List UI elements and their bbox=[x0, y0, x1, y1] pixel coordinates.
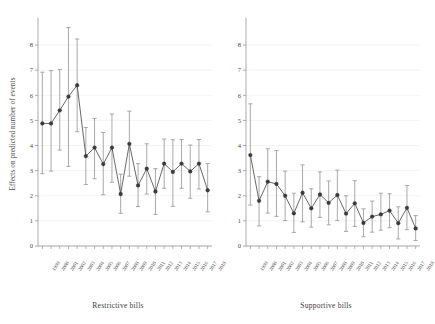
y-tick-label: 3 bbox=[238, 167, 242, 174]
data-point bbox=[327, 201, 331, 205]
y-tick-label: 7 bbox=[30, 66, 34, 73]
data-point bbox=[188, 170, 192, 174]
data-point bbox=[388, 209, 392, 213]
y-tick-label: 6 bbox=[30, 92, 34, 99]
data-point bbox=[101, 162, 105, 166]
y-tick-label: 3 bbox=[30, 167, 34, 174]
data-point bbox=[344, 212, 348, 216]
y-tick-label: 4 bbox=[238, 142, 242, 149]
data-point bbox=[110, 146, 114, 150]
series-line bbox=[250, 155, 415, 228]
x-tick-label: 2014 bbox=[389, 260, 400, 272]
data-point bbox=[162, 162, 166, 166]
data-point bbox=[353, 201, 357, 205]
y-tick-label: 2 bbox=[238, 192, 241, 199]
data-point bbox=[58, 108, 62, 112]
data-point bbox=[309, 206, 313, 210]
y-tick-label: 0 bbox=[30, 242, 34, 249]
plot-area-supportive: 012345678 bbox=[228, 10, 424, 260]
x-tick-label: 2014 bbox=[181, 260, 192, 272]
x-tick-label: 2018 bbox=[424, 260, 435, 272]
y-tick-label: 1 bbox=[238, 217, 241, 224]
data-point bbox=[171, 170, 175, 174]
data-point bbox=[335, 193, 339, 197]
data-point bbox=[405, 206, 409, 210]
error-bar bbox=[379, 193, 383, 230]
data-point bbox=[257, 199, 261, 203]
y-tick-label: 1 bbox=[30, 217, 33, 224]
y-tick-label: 8 bbox=[30, 41, 34, 48]
data-point bbox=[379, 212, 383, 216]
data-point bbox=[75, 83, 79, 87]
data-point bbox=[301, 191, 305, 195]
data-point bbox=[67, 95, 71, 99]
data-point bbox=[292, 211, 296, 215]
data-point bbox=[40, 122, 44, 126]
x-tick-label: 2004 bbox=[302, 260, 313, 272]
panel-title-restrictive: Restrictive bills bbox=[20, 301, 216, 310]
x-axis-ticklabels-restrictive: 1999200020012002200320042005200620072008… bbox=[20, 258, 216, 298]
data-point bbox=[318, 193, 322, 197]
data-point bbox=[93, 146, 97, 150]
data-point bbox=[49, 122, 53, 126]
data-point bbox=[370, 215, 374, 219]
y-tick-label: 5 bbox=[30, 117, 34, 124]
y-axis-label: Effects on predicted number of events bbox=[9, 44, 17, 224]
data-point bbox=[145, 167, 149, 171]
data-point bbox=[154, 190, 158, 194]
data-point bbox=[119, 192, 123, 196]
data-point bbox=[136, 184, 140, 188]
y-tick-label: 5 bbox=[238, 117, 242, 124]
data-point bbox=[180, 162, 184, 166]
x-tick-label: 2018 bbox=[216, 260, 227, 272]
data-point bbox=[84, 154, 88, 158]
y-tick-label: 6 bbox=[238, 92, 242, 99]
plot-area-restrictive: 012345678 bbox=[20, 10, 216, 260]
data-point bbox=[206, 188, 210, 192]
data-point bbox=[127, 142, 131, 146]
panel-title-supportive: Supportive bills bbox=[228, 301, 424, 310]
data-point bbox=[362, 221, 366, 225]
data-point bbox=[248, 153, 252, 157]
y-tick-label: 4 bbox=[30, 142, 34, 149]
y-tick-label: 2 bbox=[30, 192, 33, 199]
y-tick-label: 0 bbox=[238, 242, 242, 249]
y-tick-label: 8 bbox=[238, 41, 242, 48]
x-tick-label: 2004 bbox=[94, 260, 105, 272]
data-point bbox=[414, 227, 418, 231]
panel-restrictive-bills: 012345678 199920002001200220032004200520… bbox=[20, 10, 216, 310]
data-point bbox=[283, 194, 287, 198]
y-tick-label: 7 bbox=[238, 66, 242, 73]
data-point bbox=[197, 162, 201, 166]
data-point bbox=[275, 182, 279, 186]
data-point bbox=[266, 180, 270, 184]
data-point bbox=[396, 221, 400, 225]
x-axis-ticklabels-supportive: 1999200020012002200320042005200620072008… bbox=[228, 258, 424, 298]
panel-supportive-bills: 012345678 199920002001200220032004200520… bbox=[228, 10, 424, 310]
